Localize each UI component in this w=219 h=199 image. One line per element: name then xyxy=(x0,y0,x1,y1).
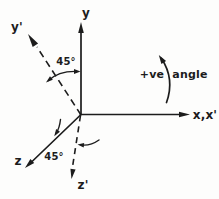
angle-word-label: angle xyxy=(172,68,207,81)
x-axis-label: x,x' xyxy=(193,108,218,122)
rotated-axes-figure: y y' x,x' z z' 45° 45° +ve angle xyxy=(0,0,219,199)
z-prime-axis-label: z' xyxy=(77,178,88,192)
z-axis-label: z xyxy=(14,154,21,168)
z-prime-rotation-arrowhead-icon xyxy=(78,143,85,147)
y-axis-label: y xyxy=(82,6,90,20)
upper-angle-value-label: 45° xyxy=(56,56,76,67)
y-prime-arrowhead-icon xyxy=(28,34,38,47)
axes-diagram-canvas: y y' x,x' z z' 45° 45° +ve angle xyxy=(0,0,219,199)
positive-angle-arrowhead-icon xyxy=(159,55,166,64)
lower-angle-value-label: 45° xyxy=(44,151,64,162)
x-axis-arrowhead-icon xyxy=(179,112,190,118)
positive-sign-label: +ve xyxy=(140,68,164,81)
upper-angle-arc xyxy=(49,71,76,80)
y-prime-axis-label: y' xyxy=(11,20,23,34)
z-prime-arrowhead-icon xyxy=(70,169,75,179)
z-prime-axis-line xyxy=(73,116,81,168)
z-prime-rotation-arrow-arc xyxy=(82,140,100,145)
upper-angle-arc-right-arrowhead-icon xyxy=(74,69,81,74)
y-axis-arrowhead-icon xyxy=(78,22,84,33)
